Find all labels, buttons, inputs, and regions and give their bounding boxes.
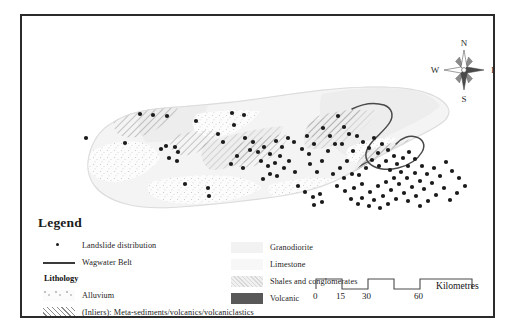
scale-tick-0: 0: [313, 291, 318, 301]
legend-item-label: Wagwater Belt: [82, 254, 132, 271]
legend-title: Legend: [38, 215, 82, 231]
compass-south-label: S: [461, 94, 466, 104]
compass-star: [444, 50, 484, 90]
map-frame: N S E W: [20, 14, 495, 318]
scale-units-label: Kilometres: [436, 280, 479, 291]
scale-tick-15: 15: [336, 291, 345, 301]
legend-item-label: Volcanic: [270, 290, 299, 307]
compass-rose: N S E W: [428, 34, 495, 106]
scale-tick-30: 30: [362, 291, 371, 301]
inliers-swatch-icon: [43, 307, 75, 318]
scale-bar: 0 15 30 60 Kilometres: [312, 271, 492, 313]
landslide-dot-icon: [56, 243, 59, 246]
shales-swatch-icon: [231, 276, 263, 287]
legend-item-label: Granodiorite: [270, 239, 313, 256]
map-figure: N S E W: [0, 0, 512, 332]
granodiorite-swatch-icon: [231, 242, 263, 253]
compass-east-label: E: [491, 65, 495, 75]
alluvium-swatch-icon: [43, 290, 75, 301]
legend-item-label: Landslide distribution: [82, 237, 156, 254]
wagwater-line-icon: [43, 262, 75, 264]
limestone-swatch-icon: [231, 259, 263, 270]
legend-item-label: Limestone: [270, 256, 305, 273]
compass-west-label: W: [431, 65, 440, 75]
volcanic-swatch-icon: [231, 293, 263, 304]
island-layers: [77, 76, 462, 221]
scale-tick-60: 60: [414, 291, 423, 301]
compass-north-label: N: [461, 38, 468, 48]
legend-item-granodiorite: Granodiorite: [226, 239, 406, 256]
legend-item-label: Alluvium: [82, 287, 114, 304]
